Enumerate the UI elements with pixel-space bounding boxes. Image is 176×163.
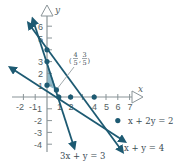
svg-text:,: , [79,56,81,64]
svg-text:): ) [88,57,91,65]
point-6-neg2 [115,118,120,123]
equation-label: x + 2y = 2 [128,116,173,126]
point-0-3 [44,59,49,64]
equation-label: 3x + y = 3 [60,151,105,161]
x-tick-label: -2 [16,102,24,112]
x-tick-label: 5 [104,102,109,112]
point-0-4 [44,47,49,52]
point-label: ( 4 5 , 3 5 ) [69,51,91,68]
point-4-5-3-5 [54,87,59,92]
x-axis-label: x [138,84,143,94]
x-tick-label: 6 [116,102,121,112]
y-tick-label: -1 [34,104,42,114]
point-label-leader [57,67,74,89]
svg-text:4: 4 [74,51,78,59]
y-tick-label: 6 [38,22,43,32]
y-tick-label: 2 [38,69,43,79]
y-tick-label: -3 [34,128,42,138]
point-2-0 [68,94,73,99]
equation-label: x + y = 4 [124,143,164,153]
y-axis-label: y [54,5,61,15]
svg-text:3: 3 [83,51,87,59]
graph: x y -2 -1 1 2 4 5 6 7 6 5 3 2 1 -1 -2 -3… [0,0,176,163]
y-tick-label: -2 [34,116,42,126]
y-tick-label: 3 [38,57,43,67]
svg-text:5: 5 [83,59,87,67]
svg-text:(: ( [69,57,72,65]
svg-text:5: 5 [74,59,78,67]
x-tick-label: 7 [128,102,133,112]
y-axis-arrow-icon [41,5,53,16]
point-0-1 [44,83,49,88]
point-4-0 [92,94,97,99]
point-1-0 [56,94,61,99]
y-tick-label: -4 [34,140,42,150]
